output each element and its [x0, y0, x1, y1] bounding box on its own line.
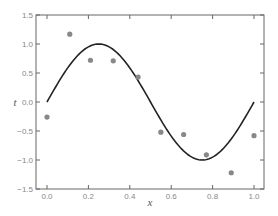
y-tick-label: 0.0: [22, 98, 34, 107]
data-point: [251, 133, 256, 138]
y-tick-label: 0.5: [22, 69, 34, 78]
data-point: [111, 58, 116, 63]
y-tick-label: −0.5: [17, 127, 33, 136]
data-point: [44, 114, 49, 119]
y-tick-label: −1.0: [17, 156, 33, 165]
x-tick-label: 0.4: [124, 192, 136, 201]
y-tick-label: −1.5: [17, 185, 33, 194]
data-point: [204, 152, 209, 157]
y-axis-label: t: [13, 96, 17, 108]
data-point: [88, 58, 93, 63]
data-point: [229, 170, 234, 175]
y-tick-label: 1.5: [22, 11, 34, 20]
data-point: [135, 74, 140, 79]
sine-curve: [47, 44, 254, 160]
x-axis-label: x: [147, 196, 153, 208]
x-tick-label: 1.0: [248, 192, 260, 201]
data-point: [181, 132, 186, 137]
data-point: [67, 32, 72, 37]
x-tick-label: 0.2: [83, 192, 95, 201]
data-point: [158, 130, 163, 135]
x-tick-label: 0.6: [166, 192, 178, 201]
sine-curve-path: [47, 44, 254, 160]
y-tick-label: 1.0: [22, 40, 34, 49]
x-tick-label: 0.8: [207, 192, 219, 201]
chart: 0.00.20.40.60.81.01.51.00.50.0−0.5−1.0−1…: [0, 0, 278, 216]
axis-ticks: 0.00.20.40.60.81.01.51.00.50.0−0.5−1.0−1…: [17, 11, 264, 201]
x-tick-label: 0.0: [41, 192, 53, 201]
